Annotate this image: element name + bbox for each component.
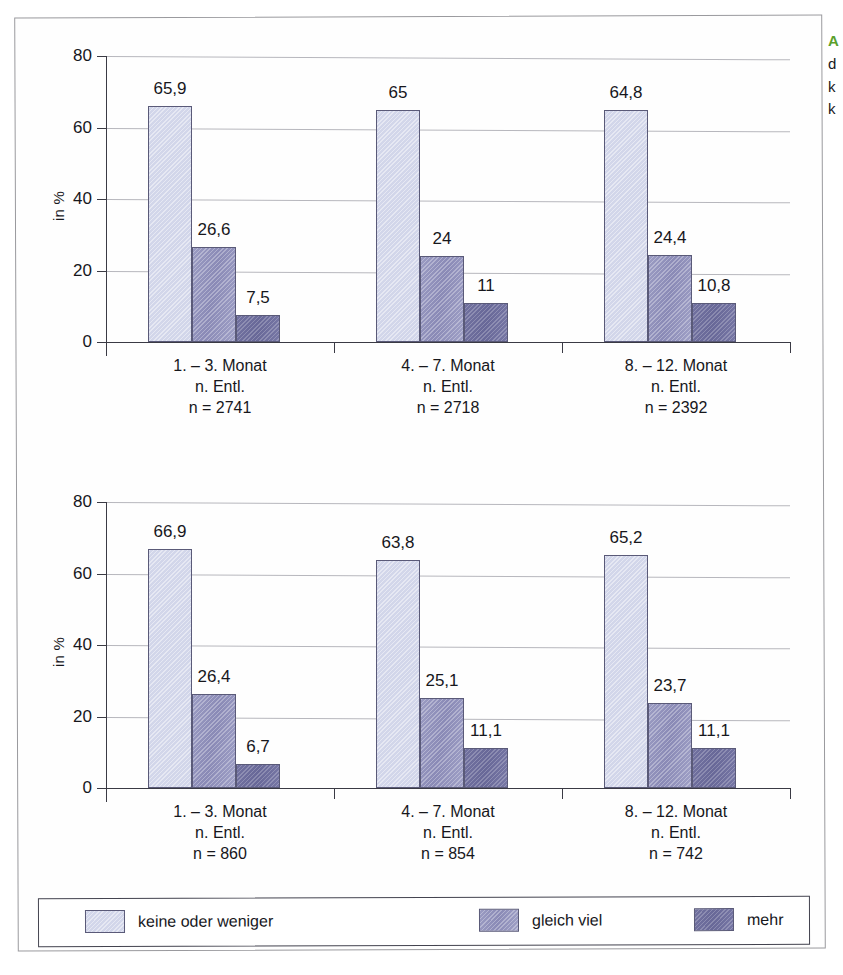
x-category-label: 8. – 12. Monatn. Entl.n = 2392 [562,356,790,418]
x-axis-end-tick [790,788,791,799]
bar [376,110,420,342]
legend-swatch [85,910,125,933]
bar [648,255,692,342]
category-name: 8. – 12. Monat [625,357,727,374]
x-tick-mark [334,342,335,353]
bar [692,303,736,342]
category-count: n = 854 [334,844,562,865]
bar [464,303,508,342]
plot-area-top: in %02040608065,926,67,51. – 3. Monatn. … [0,24,843,454]
gridline [106,56,790,60]
category-name: 1. – 3. Monat [173,357,266,374]
legend-item: gleich viel [479,908,602,931]
gridline [106,645,790,649]
bar-value-label: 65 [358,84,438,101]
category-sublabel: n. Entl. [106,823,334,844]
x-category-label: 1. – 3. Monatn. Entl.n = 2741 [106,356,334,418]
bar [420,698,464,788]
x-category-label: 1. – 3. Monatn. Entl.n = 860 [106,802,334,864]
legend-label: keine oder weniger [138,912,273,930]
bar [604,110,648,342]
y-tick-label: 80 [44,47,92,64]
category-name: 1. – 3. Monat [173,803,266,820]
y-tick-mark [97,342,106,343]
x-tick-mark [334,788,335,799]
category-count: n = 2392 [562,398,790,419]
bar-value-label: 10,8 [674,277,754,294]
legend-item: keine oder weniger [85,909,273,933]
y-tick-mark [97,271,106,272]
gridline [106,199,790,203]
category-count: n = 742 [562,844,790,865]
legend-swatch [479,909,519,932]
x-axis-end-tick [790,342,791,353]
category-count: n = 860 [106,844,334,865]
y-tick-label: 40 [44,190,92,207]
category-count: n = 2718 [334,398,562,419]
x-category-label: 8. – 12. Monatn. Entl.n = 742 [562,802,790,864]
legend-swatch [694,908,734,931]
bar [648,703,692,788]
bar-value-label: 65,2 [586,529,666,546]
bar-value-label: 23,7 [630,677,710,694]
bar [692,748,736,788]
y-tick-label: 60 [44,119,92,136]
y-tick-label: 80 [44,493,92,510]
category-name: 4. – 7. Monat [401,357,494,374]
bar-value-label: 6,7 [218,738,298,755]
x-tick-mark [562,342,563,353]
y-tick-mark [97,128,106,129]
bar-value-label: 24 [402,230,482,247]
gridline [106,502,790,506]
bar-value-label: 11,1 [446,722,526,739]
category-sublabel: n. Entl. [562,377,790,398]
legend-item: mehr [694,908,784,931]
x-category-label: 4. – 7. Monatn. Entl.n = 2718 [334,356,562,418]
plot-area-bottom: in %02040608066,926,46,71. – 3. Monatn. … [0,470,843,900]
figure-page: in %02040608065,926,67,51. – 3. Monatn. … [0,0,843,975]
y-tick-label: 60 [44,565,92,582]
bar-value-label: 26,6 [174,221,254,238]
chart-bottom: in %02040608066,926,46,71. – 3. Monatn. … [0,470,843,900]
category-sublabel: n. Entl. [106,377,334,398]
y-tick-mark [97,502,106,503]
y-tick-label: 40 [44,636,92,653]
side-caption-line-2: k [828,76,843,99]
y-tick-label: 0 [44,779,92,796]
bar [420,256,464,342]
side-caption-heading: A [828,30,843,53]
bar-value-label: 11 [446,277,526,294]
chart-top: in %02040608065,926,67,51. – 3. Monatn. … [0,24,843,454]
legend-label: mehr [747,910,784,928]
bar-value-label: 64,8 [586,84,666,101]
y-tick-mark [97,574,106,575]
bar-value-label: 63,8 [358,534,438,551]
bar-value-label: 65,9 [130,80,210,97]
y-tick-label: 20 [44,708,92,725]
bar [464,748,508,788]
bar-value-label: 66,9 [130,523,210,540]
bar-value-label: 26,4 [174,668,254,685]
y-tick-mark [97,645,106,646]
gridline [106,574,790,578]
gridline [106,128,790,132]
y-tick-label: 20 [44,262,92,279]
y-axis-line [106,56,107,356]
bar [236,315,280,342]
bar-value-label: 24,4 [630,229,710,246]
side-caption-line-1: d [828,53,843,76]
y-axis-line [106,502,107,802]
category-name: 4. – 7. Monat [401,803,494,820]
x-category-label: 4. – 7. Monatn. Entl.n = 854 [334,802,562,864]
category-sublabel: n. Entl. [334,823,562,844]
bar-value-label: 7,5 [218,289,298,306]
y-tick-label: 0 [44,333,92,350]
category-count: n = 2741 [106,398,334,419]
legend-label: gleich viel [532,911,602,929]
side-caption-clipped: A d k k [828,30,843,121]
category-sublabel: n. Entl. [334,377,562,398]
side-caption-line-3: k [828,98,843,121]
category-sublabel: n. Entl. [562,823,790,844]
x-axis-line [106,342,790,343]
category-name: 8. – 12. Monat [625,803,727,820]
